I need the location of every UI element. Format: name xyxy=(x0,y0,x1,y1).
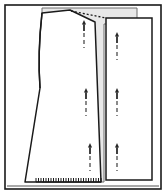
pattern-diagram-figure: Sewing pattern layout diagram Line drawi… xyxy=(0,0,166,194)
pattern-piece-back-panel xyxy=(106,18,152,180)
diagram-canvas xyxy=(0,0,166,194)
hem-hatch-line xyxy=(36,178,101,182)
